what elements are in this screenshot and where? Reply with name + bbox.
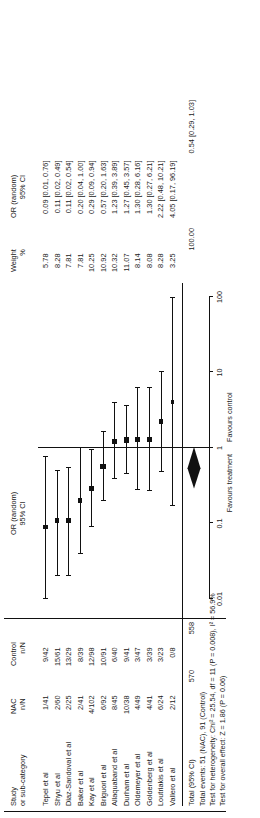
forest-plot-figure: Study or sub-category Tepel et alShyu et… bbox=[0, 0, 260, 818]
or-ci-value: 0.57 [0.20, 1.63] bbox=[98, 160, 110, 218]
nac-value: 2/41 bbox=[75, 696, 87, 715]
or-ci-value: 1.23 [0.39, 3.89] bbox=[109, 160, 121, 218]
weight-value-list: 5.788.287.817.8110.2510.9210.3211.078.14… bbox=[40, 254, 179, 273]
forest-row bbox=[98, 283, 110, 613]
effect-size-marker bbox=[78, 498, 83, 503]
or-ci-value: 0.09 [0.01, 0.76] bbox=[40, 160, 52, 218]
confidence-interval-cap bbox=[147, 490, 152, 491]
confidence-interval-cap bbox=[55, 470, 60, 471]
forest-row bbox=[144, 283, 156, 613]
total-weight: 100.00 bbox=[186, 228, 197, 272]
nac-value-list: 1/412/602/252/414/1026/928/4510/384/494/… bbox=[40, 696, 179, 715]
nac-header-line2: n/N bbox=[19, 698, 28, 714]
control-value: 10/91 bbox=[98, 648, 110, 667]
control-value-list: 9/4215/6113/298/3912/9810/916/409/413/47… bbox=[40, 648, 179, 667]
confidence-interval-cap bbox=[78, 447, 83, 448]
study-name: Kay et al bbox=[86, 742, 98, 806]
forest-row bbox=[121, 283, 133, 613]
confidence-interval-cap bbox=[159, 371, 164, 372]
nac-column-header: NAC n/N bbox=[10, 698, 27, 714]
or-column-header: OR (random) 95% CI bbox=[10, 175, 27, 218]
effect-size-marker bbox=[171, 400, 174, 403]
effect-size-marker bbox=[55, 518, 60, 523]
control-value: 13/29 bbox=[63, 648, 75, 667]
confidence-interval-cap bbox=[43, 598, 48, 599]
weight-header-line2: % bbox=[19, 249, 28, 272]
study-name: Goldenberg et al bbox=[144, 742, 156, 806]
heterogeneity-test-line: Test for heterogeneity: Chi² = 25.54, df… bbox=[208, 266, 218, 806]
confidence-interval-cap bbox=[43, 456, 48, 457]
confidence-interval-line bbox=[57, 471, 58, 576]
effect-size-marker bbox=[100, 464, 106, 470]
confidence-interval-cap bbox=[112, 478, 117, 479]
confidence-interval-cap bbox=[159, 471, 164, 472]
control-value: 12/98 bbox=[86, 648, 98, 667]
forest-row bbox=[75, 283, 87, 613]
nac-value: 1/41 bbox=[40, 696, 52, 715]
forest-row bbox=[86, 283, 98, 613]
weight-value: 5.78 bbox=[40, 254, 52, 273]
or-ci-value: 4.05 [0.17, 96.19] bbox=[167, 160, 179, 218]
or-ci-value: 0.11 [0.02, 0.54] bbox=[63, 160, 75, 218]
study-name: Baker et al bbox=[75, 742, 87, 806]
weight-value: 8.28 bbox=[52, 254, 64, 273]
nac-value: 10/38 bbox=[121, 696, 133, 715]
effect-size-marker bbox=[159, 419, 164, 424]
study-name: Briguori et al bbox=[98, 742, 110, 806]
study-name: Oldemeyer et al bbox=[132, 742, 144, 806]
study-name: Vallero et al bbox=[167, 742, 179, 806]
forest-row bbox=[167, 283, 179, 613]
weight-value: 10.92 bbox=[98, 254, 110, 273]
nac-value: 6/24 bbox=[155, 696, 167, 715]
total-or-ci: 0.54 [0.29, 1.03] bbox=[186, 100, 197, 218]
nac-value: 2/25 bbox=[63, 696, 75, 715]
control-column-header: Control n/N bbox=[10, 642, 27, 666]
confidence-interval-cap bbox=[124, 473, 129, 474]
or-ci-value: 1.27 [0.45, 3.57] bbox=[121, 160, 133, 218]
weight-value: 3.25 bbox=[167, 254, 179, 273]
total-events-line: Total events: 51 (NAC), 91 (Control) bbox=[198, 266, 208, 806]
confidence-interval-cap bbox=[66, 467, 71, 468]
or-ci-value: 0.11 [0.02, 0.49] bbox=[52, 160, 64, 218]
forest-row bbox=[156, 283, 168, 613]
or-ci-value: 1.30 [0.27, 6.21] bbox=[144, 160, 156, 218]
weight-value: 8.28 bbox=[155, 254, 167, 273]
study-name: Durham et al bbox=[121, 742, 133, 806]
forest-plot-body: Study or sub-category Tepel et alShyu et… bbox=[0, 0, 260, 818]
study-name: Loutriakis et al bbox=[155, 742, 167, 806]
confidence-interval-cap bbox=[170, 297, 175, 298]
nac-value: 2/60 bbox=[52, 696, 64, 715]
control-value: 9/41 bbox=[121, 648, 133, 667]
study-name-list: Tepel et alShyu et alDiaz-Sandoval et al… bbox=[40, 742, 179, 806]
total-nac: 570 bbox=[186, 670, 197, 714]
nac-value: 4/41 bbox=[144, 696, 156, 715]
control-value: 6/40 bbox=[109, 648, 121, 667]
nac-value: 8/45 bbox=[109, 696, 121, 715]
total-control: 558 bbox=[186, 622, 197, 666]
confidence-interval-cap bbox=[101, 431, 106, 432]
control-value: 3/47 bbox=[132, 648, 144, 667]
control-value: 9/42 bbox=[40, 648, 52, 667]
control-value: 8/39 bbox=[75, 648, 87, 667]
or-ci-value: 2.22 [0.48, 10.21] bbox=[155, 160, 167, 218]
effect-size-marker bbox=[147, 437, 152, 442]
weight-value: 7.81 bbox=[63, 254, 75, 273]
control-value: 3/23 bbox=[155, 648, 167, 667]
study-column-header: Study or sub-category bbox=[10, 755, 27, 806]
effect-size-marker bbox=[43, 525, 47, 529]
overall-effect-test-line: Test for overall effect: Z = 1.86 (P = 0… bbox=[218, 266, 228, 806]
weight-value: 10.32 bbox=[109, 254, 121, 273]
weight-value: 10.25 bbox=[86, 254, 98, 273]
confidence-interval-cap bbox=[147, 387, 152, 388]
nac-value: 2/12 bbox=[167, 696, 179, 715]
confidence-interval-cap bbox=[89, 449, 94, 450]
study-name: Shyu et al bbox=[52, 742, 64, 806]
weight-value: 8.08 bbox=[144, 254, 156, 273]
or-ci-value: 1.30 [0.28, 6.16] bbox=[132, 160, 144, 218]
forest-row bbox=[132, 283, 144, 613]
confidence-interval-cap bbox=[170, 505, 175, 506]
nac-value: 4/49 bbox=[132, 696, 144, 715]
total-label: Total (95% CI) bbox=[186, 714, 197, 806]
effect-size-marker bbox=[89, 486, 94, 491]
confidence-interval-cap bbox=[135, 387, 140, 388]
